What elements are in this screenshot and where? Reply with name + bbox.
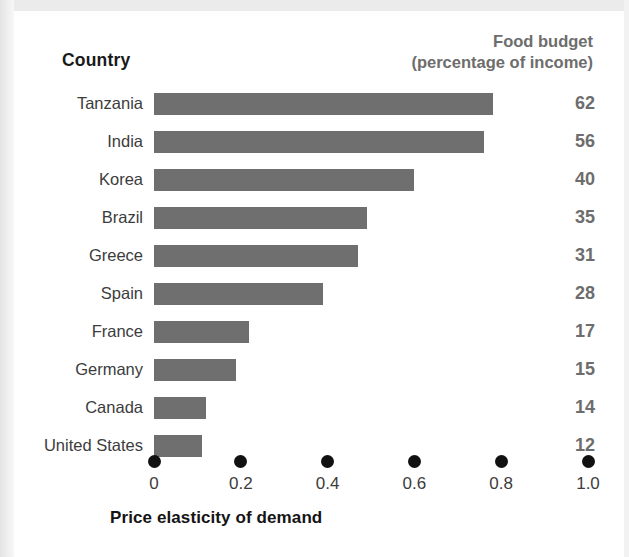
row-bar <box>154 93 493 115</box>
row-bar <box>154 169 414 191</box>
row-bar <box>154 207 367 229</box>
chart-page: Country Food budget (percentage of incom… <box>0 0 629 557</box>
table-row: Spain28 <box>0 278 629 316</box>
table-row: France17 <box>0 316 629 354</box>
row-country-label: Brazil <box>0 208 143 227</box>
row-bar <box>154 359 236 381</box>
x-axis-tick-dot <box>495 455 508 468</box>
x-axis-tick-label: 0.8 <box>466 474 536 494</box>
row-bar <box>154 131 484 153</box>
table-row: Tanzania62 <box>0 88 629 126</box>
x-axis-tick-dot <box>582 455 595 468</box>
table-row: Greece31 <box>0 240 629 278</box>
row-food-budget-value: 15 <box>535 359 595 380</box>
row-food-budget-value: 35 <box>535 207 595 228</box>
row-bar <box>154 321 249 343</box>
row-food-budget-value: 40 <box>535 169 595 190</box>
row-food-budget-value: 12 <box>535 435 595 456</box>
x-axis-tick-label: 0.2 <box>206 474 276 494</box>
row-food-budget-value: 56 <box>535 131 595 152</box>
table-row: United States12 <box>0 430 629 468</box>
x-axis-tick-dot <box>321 455 334 468</box>
row-country-label: Canada <box>0 398 143 417</box>
row-country-label: Greece <box>0 246 143 265</box>
row-country-label: France <box>0 322 143 341</box>
row-food-budget-value: 62 <box>535 93 595 114</box>
x-axis-tick-label: 0.4 <box>293 474 363 494</box>
row-food-budget-value: 31 <box>535 245 595 266</box>
row-country-label: Spain <box>0 284 143 303</box>
x-axis-tick-dot <box>148 455 161 468</box>
row-country-label: Germany <box>0 360 143 379</box>
table-row: Korea40 <box>0 164 629 202</box>
column-header-country: Country <box>62 50 130 71</box>
x-axis-tick-label: 0.6 <box>379 474 449 494</box>
row-food-budget-value: 17 <box>535 321 595 342</box>
row-bar <box>154 245 358 267</box>
x-axis-tick-dot <box>408 455 421 468</box>
table-row: Germany15 <box>0 354 629 392</box>
column-header-food-budget: Food budget (percentage of income) <box>411 31 593 73</box>
row-food-budget-value: 14 <box>535 397 595 418</box>
row-bar <box>154 435 202 457</box>
table-row: Brazil35 <box>0 202 629 240</box>
x-axis-tick-label: 1.0 <box>553 474 623 494</box>
column-header-food-budget-line1: Food budget <box>411 31 593 52</box>
row-bar <box>154 397 206 419</box>
row-country-label: Tanzania <box>0 94 143 113</box>
row-food-budget-value: 28 <box>535 283 595 304</box>
row-country-label: Korea <box>0 170 143 189</box>
row-country-label: United States <box>0 436 143 455</box>
bar-chart: Country Food budget (percentage of incom… <box>0 0 629 557</box>
row-bar <box>154 283 323 305</box>
x-axis-tick-label: 0 <box>119 474 189 494</box>
table-row: Canada14 <box>0 392 629 430</box>
table-row: India56 <box>0 126 629 164</box>
row-country-label: India <box>0 132 143 151</box>
x-axis-title: Price elasticity of demand <box>110 508 322 528</box>
column-header-food-budget-line2: (percentage of income) <box>411 52 593 73</box>
